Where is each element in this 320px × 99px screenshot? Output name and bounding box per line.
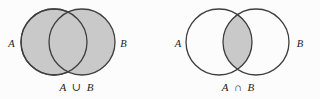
union-label-a: A [7,38,15,49]
intersection-label-b: B [297,38,304,49]
intersection-caption: A ∩ B [221,81,255,93]
union-diagram: A B A ∪ B [7,9,127,93]
union-label-b: B [120,38,127,49]
union-caption: A ∪ B [59,81,94,93]
venn-diagrams-svg: A B A ∪ B A B A ∩ B [0,0,320,99]
intersection-diagram: A B A ∩ B [174,9,304,93]
union-circle-b [49,9,115,75]
venn-diagrams-figure: A B A ∪ B A B A ∩ B [0,0,320,99]
intersection-label-a: A [174,38,182,49]
